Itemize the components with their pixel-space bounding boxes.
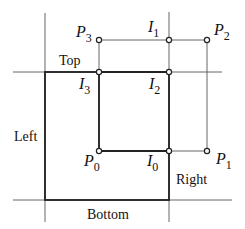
intersection-i2 [166, 69, 171, 74]
vertex-p0 [96, 148, 101, 153]
label-i0: I0 [146, 152, 158, 174]
intersection-i1 [166, 37, 171, 42]
intersection-i0 [166, 148, 171, 153]
region-label-bottom: Bottom [87, 207, 129, 222]
label-p1: P1 [215, 150, 232, 172]
label-i2: I2 [148, 75, 160, 97]
region-label-left: Left [14, 129, 37, 144]
label-p0: P0 [83, 152, 100, 174]
label-p3: P3 [75, 23, 92, 45]
label-p2: P2 [213, 21, 230, 43]
label-i1: I1 [147, 18, 159, 40]
input-polygon [99, 40, 207, 151]
vertex-p2 [204, 37, 209, 42]
region-label-right: Right [176, 172, 207, 187]
intersection-i3 [96, 69, 101, 74]
label-i3: I3 [78, 75, 90, 97]
clipping-diagram: Top Left Right Bottom P3 I1 P2 I3 I2 P0 … [0, 0, 245, 229]
vertex-p1 [204, 148, 209, 153]
region-label-top: Top [59, 53, 81, 68]
vertex-p3 [96, 37, 101, 42]
